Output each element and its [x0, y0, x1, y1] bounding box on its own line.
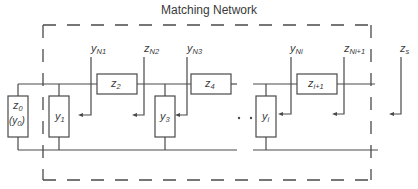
zi1-label: zi+1 [308, 78, 324, 91]
yN1-label: yN1 [91, 43, 106, 56]
matching-network-diagram: Matching Network [0, 0, 418, 189]
z4-label: z4 [205, 78, 215, 91]
y1-label: y1 [55, 111, 65, 124]
y0-label: (y0) [9, 116, 25, 128]
port-yNi-arrow [278, 57, 291, 116]
y3-label: y3 [160, 111, 170, 124]
zs-label: zs [400, 43, 409, 56]
z0-label: z0 [13, 100, 23, 113]
ellipsis-dot [250, 117, 252, 119]
port-yN3-arrow [175, 57, 187, 117]
z2-label: z2 [111, 78, 121, 91]
port-yN1-arrow [78, 57, 91, 117]
yi-label: yi [262, 111, 269, 124]
circuit-schematic [0, 0, 418, 189]
port-zs-arrow [389, 57, 401, 116]
zNi1-label: zNi+1 [344, 43, 365, 56]
yN3-label: yN3 [187, 43, 202, 56]
zN2-label: zN2 [144, 43, 159, 56]
ellipsis-dot [238, 117, 240, 119]
yNi-label: yNi [290, 43, 303, 56]
